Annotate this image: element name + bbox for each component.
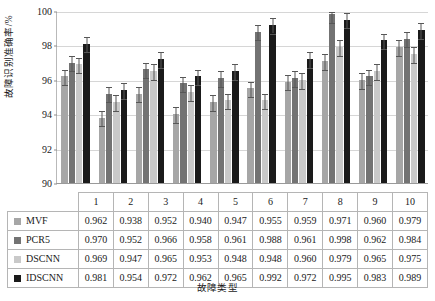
bar-group	[169, 12, 206, 183]
table-cell: 0.955	[253, 212, 288, 231]
bar-rect	[106, 94, 112, 183]
error-bar	[138, 87, 139, 102]
table-cell: 0.961	[218, 231, 253, 250]
error-bar-cap-bottom	[218, 87, 224, 88]
error-bar-cap-top	[188, 85, 194, 86]
error-bar-cap-bottom	[76, 73, 82, 74]
error-bar-cap-top	[225, 94, 231, 95]
legend-item-dscnn: DSCNN	[8, 250, 79, 269]
table-cell: 0.962	[79, 212, 114, 231]
table-cell: 0.952	[148, 212, 183, 231]
error-bar-cap-top	[113, 95, 119, 96]
error-bar-cap-top	[322, 54, 328, 55]
bar-rect	[366, 76, 372, 183]
error-bar	[228, 94, 229, 109]
table-row: PCR50.9700.9520.9660.9580.9610.9880.9610…	[8, 231, 428, 250]
error-bar-cap-top	[106, 87, 112, 88]
legend-item-pcr5: PCR5	[8, 231, 79, 250]
table-column-header-7: 7	[288, 193, 323, 212]
error-bar	[287, 75, 288, 90]
bar-mvf	[136, 12, 142, 183]
error-bar-cap-bottom	[404, 47, 410, 48]
bar-dscnn	[299, 12, 305, 183]
bar-rect	[292, 78, 298, 183]
plot-area: 9092949698100	[56, 12, 428, 184]
error-bar-cap-top	[366, 70, 372, 71]
error-bar-cap-top	[218, 71, 224, 72]
error-bar	[406, 32, 407, 47]
error-bar-cap-bottom	[299, 89, 305, 90]
error-bar-cap-bottom	[151, 80, 157, 81]
table-column-header-2: 2	[113, 193, 148, 212]
error-bar	[71, 56, 72, 71]
error-bar	[64, 70, 65, 85]
error-bar	[116, 95, 117, 110]
bar-group	[94, 12, 131, 183]
bar-idscnn	[418, 12, 424, 183]
table-cell: 0.998	[323, 231, 358, 250]
table-cell: 0.953	[183, 250, 218, 269]
error-bar	[332, 12, 333, 23]
bar-rect	[210, 102, 216, 183]
error-bar-cap-bottom	[366, 85, 372, 86]
error-bar	[414, 47, 415, 62]
table-cell: 0.938	[113, 212, 148, 231]
bar-mvf	[322, 12, 328, 183]
table-head: 12345678910	[8, 193, 428, 212]
table-cell: 0.947	[218, 212, 253, 231]
error-bar-cap-bottom	[292, 87, 298, 88]
error-bar	[213, 95, 214, 110]
error-bar-cap-bottom	[329, 23, 335, 24]
bar-rect	[225, 100, 231, 183]
error-bar-cap-bottom	[225, 109, 231, 110]
error-bar-cap-top	[411, 47, 417, 48]
table-cell: 0.948	[218, 250, 253, 269]
error-bar	[101, 111, 102, 126]
error-bar-cap-top	[84, 37, 90, 38]
table-column-header-1: 1	[79, 193, 114, 212]
table-cell: 0.969	[79, 250, 114, 269]
error-bar-cap-top	[158, 52, 164, 53]
bar-mvf	[61, 12, 67, 183]
legend-swatch-icon	[14, 256, 21, 263]
error-bar	[257, 25, 258, 40]
legend-label: DSCNN	[26, 253, 60, 264]
table-column-header-9: 9	[358, 193, 393, 212]
error-bar-cap-top	[69, 56, 75, 57]
error-bar-cap-bottom	[62, 85, 68, 86]
error-bar	[362, 73, 363, 88]
table-cell: 0.988	[253, 231, 288, 250]
error-bar-cap-top	[359, 73, 365, 74]
table-cell: 0.979	[323, 250, 358, 269]
bar-rect	[180, 83, 186, 183]
bar-dscnn	[225, 12, 231, 183]
bar-dscnn	[262, 12, 268, 183]
error-bar-cap-bottom	[136, 102, 142, 103]
table-column-header-8: 8	[323, 193, 358, 212]
error-bar	[324, 54, 325, 69]
table-column-header-10: 10	[393, 193, 428, 212]
error-bar-cap-top	[307, 52, 313, 53]
error-bar	[123, 83, 124, 98]
error-bar-cap-bottom	[180, 92, 186, 93]
bar-rect	[150, 71, 156, 183]
error-bar	[161, 52, 162, 67]
bar-rect	[232, 71, 238, 183]
bar-mvf	[210, 12, 216, 183]
error-bar-cap-bottom	[106, 102, 112, 103]
error-bar	[190, 85, 191, 100]
table-row: MVF0.9620.9380.9520.9400.9470.9550.9590.…	[8, 212, 428, 231]
bar-group	[280, 12, 317, 183]
table-cell: 0.979	[393, 212, 428, 231]
error-bar-cap-bottom	[344, 28, 350, 29]
bar-pcr5	[218, 12, 224, 183]
bar-rect	[329, 14, 335, 183]
bar-rect	[83, 44, 89, 183]
error-bar-cap-top	[262, 94, 268, 95]
error-bar-cap-top	[99, 111, 105, 112]
bar-rect	[262, 100, 268, 183]
error-bar	[146, 63, 147, 78]
error-bar-cap-bottom	[69, 71, 75, 72]
bar-rect	[359, 80, 365, 183]
error-bar	[421, 23, 422, 38]
